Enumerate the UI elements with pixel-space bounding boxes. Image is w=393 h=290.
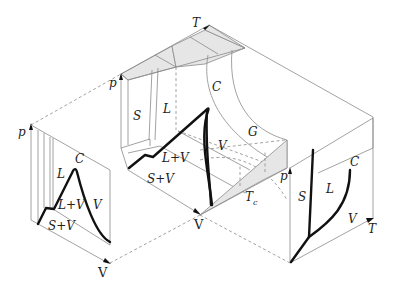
pt-label-l: L xyxy=(325,182,334,196)
main-vapor-curve xyxy=(207,110,211,205)
solid-edge-3 xyxy=(155,68,158,140)
main-v-arrow-icon xyxy=(193,208,201,215)
pv-bottom-connector xyxy=(110,215,200,263)
top-back-edge xyxy=(209,25,373,117)
main-label-c: C xyxy=(212,80,221,94)
pv-label-sv: S+V xyxy=(48,219,76,233)
pv-top-connector xyxy=(31,74,121,125)
pt-label-s: S xyxy=(298,190,306,204)
lv-line-2 xyxy=(178,131,250,170)
pv-label-v: V xyxy=(93,198,103,212)
main-label-v: V xyxy=(218,139,228,153)
main-left-front-vertical xyxy=(121,148,128,170)
pv-label-lv: L+V xyxy=(57,198,86,212)
pt-label-t: T xyxy=(368,222,377,236)
curve-g-boundary xyxy=(232,50,287,140)
pt-melting-curve xyxy=(309,150,313,237)
main-label-v-axis: V xyxy=(193,217,204,232)
pv-label-l: L xyxy=(56,167,65,181)
pt-p-arrow-icon xyxy=(288,167,292,174)
main-label-sv: S+V xyxy=(147,172,175,186)
pv-v-arrow-icon xyxy=(103,258,111,264)
phase-diagram: T p S L C G V L+V S+V T c V p L xyxy=(0,0,393,290)
pv-label-p: p xyxy=(18,125,26,139)
pt-top-edge xyxy=(290,118,373,168)
top-shade-solid xyxy=(121,46,176,80)
pv-label-v-axis: V xyxy=(97,265,108,280)
main-label-s: S xyxy=(133,109,141,123)
solid-edge-2 xyxy=(149,70,152,140)
pt-label-c: C xyxy=(350,155,359,169)
main-surface: T p S L C G V L+V S+V T c V xyxy=(109,16,373,232)
lv-dash-2 xyxy=(200,140,285,150)
pt-vaporization-curve xyxy=(309,170,350,237)
main-label-l: L xyxy=(162,102,171,116)
pv-top-edge xyxy=(31,125,110,170)
pt-label-v: V xyxy=(348,212,358,226)
main-label-lv: L+V xyxy=(161,151,190,165)
pt-label-p: p xyxy=(280,169,288,183)
pv-label-c: C xyxy=(75,152,84,166)
right-block-bottom xyxy=(318,148,373,173)
pt-sublimation-curve xyxy=(291,237,309,262)
main-label-tc-sub: c xyxy=(253,198,258,207)
block-h-1 xyxy=(121,139,150,148)
main-label-t: T xyxy=(192,16,201,30)
block-h-2 xyxy=(128,146,160,153)
pt-t-axis xyxy=(290,219,371,263)
pt-bottom-connector xyxy=(200,215,290,263)
main-label-g: G xyxy=(248,125,258,139)
